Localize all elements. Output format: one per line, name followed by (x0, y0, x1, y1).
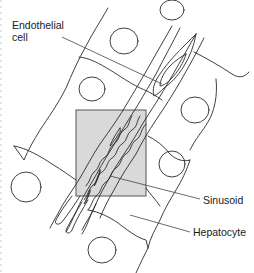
cell-boundary-right-side (190, 79, 217, 150)
nucleus-4 (11, 172, 41, 202)
leader-hepatocyte (130, 215, 190, 232)
cell-boundary-lower-mid (88, 210, 148, 248)
sinusoid-tail-2 (66, 200, 88, 233)
nucleus-2 (79, 77, 105, 101)
leader-endothelial (62, 37, 162, 84)
nucleus-1 (110, 28, 138, 54)
cell-boundary-right-lower (148, 160, 190, 248)
cell-boundary-right-mid (148, 136, 190, 161)
highlight-box (76, 110, 146, 196)
nucleus-6 (88, 237, 116, 263)
cell-boundary-left-mid (14, 146, 76, 180)
liver-sinusoid-diagram: Endothelial cell Sinusoid Hepatocyte (0, 0, 254, 273)
cell-boundary-lower-right (136, 248, 148, 273)
label-hepatocyte: Hepatocyte (193, 226, 246, 238)
label-endothelial-line2: cell (12, 31, 64, 43)
label-sinusoid: Sinusoid (203, 194, 243, 206)
cell-boundary-right-top (194, 52, 249, 77)
nucleus-5 (159, 151, 185, 177)
label-endothelial-line1: Endothelial (12, 19, 64, 31)
nucleus-7 (160, 0, 184, 20)
nucleus-3 (181, 97, 209, 123)
label-endothelial-cell: Endothelial cell (12, 19, 64, 43)
page-edge-dots (0, 0, 2, 273)
cell-boundary-bottom (146, 188, 160, 206)
sinusoid-tail-3 (82, 204, 96, 230)
